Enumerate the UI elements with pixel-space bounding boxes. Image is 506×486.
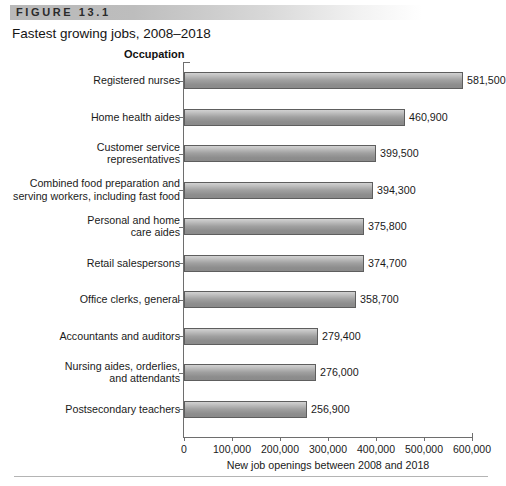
category-label-line: Nursing aides, orderlies, (0, 360, 180, 373)
category-label: Customer servicerepresentatives (0, 141, 180, 166)
category-label-line: care aides (0, 226, 180, 239)
x-axis-tick (280, 437, 281, 441)
chart-bar (184, 401, 307, 418)
x-axis-tick-label: 300,000 (309, 443, 347, 455)
chart-bar (184, 291, 356, 308)
x-axis-tick (424, 437, 425, 441)
category-label: Home health aides (0, 111, 180, 124)
category-label: Accountants and auditors (0, 330, 180, 343)
bar-value-label: 399,500 (380, 145, 419, 162)
category-label-line: serving workers, including fast food (0, 190, 180, 203)
category-label: Personal and homecare aides (0, 214, 180, 239)
chart-bar (184, 218, 364, 235)
x-axis-tick (472, 437, 473, 441)
bar-value-label: 276,000 (320, 364, 359, 381)
y-axis-cap (183, 62, 190, 63)
bottom-divider (14, 476, 488, 477)
x-axis-tick-label: 600,000 (453, 443, 491, 455)
category-label-line: Registered nurses (0, 74, 180, 87)
chart-bar (184, 364, 316, 381)
x-axis-title: New job openings between 2008 and 2018 (227, 459, 430, 471)
category-label: Nursing aides, orderlies,and attendants (0, 360, 180, 385)
category-label-line: Accountants and auditors (0, 330, 180, 343)
x-axis-tick-label: 0 (181, 443, 187, 455)
bar-value-label: 375,800 (368, 218, 407, 235)
bar-value-label: 256,900 (311, 401, 350, 418)
x-axis-tick (184, 437, 185, 441)
category-label-line: Personal and home (0, 214, 180, 227)
bar-value-label: 279,400 (322, 328, 361, 345)
x-axis-tick-label: 200,000 (261, 443, 299, 455)
category-label-line: Postsecondary teachers (0, 403, 180, 416)
bar-value-label: 394,300 (377, 182, 416, 199)
category-label-line: Home health aides (0, 111, 180, 124)
chart-bar (184, 255, 364, 272)
category-label-line: Office clerks, general (0, 293, 180, 306)
chart-bar (184, 72, 463, 89)
category-label: Retail salespersons (0, 257, 180, 270)
category-label: Registered nurses (0, 74, 180, 87)
category-label-line: Customer service (0, 141, 180, 154)
chart-bar (184, 109, 405, 126)
category-label: Postsecondary teachers (0, 403, 180, 416)
category-label-line: representatives (0, 153, 180, 166)
chart-bar (184, 328, 318, 345)
chart-bar (184, 145, 376, 162)
bar-value-label: 581,500 (467, 72, 506, 89)
bar-value-label: 460,900 (409, 109, 448, 126)
category-label-line: Combined food preparation and (0, 177, 180, 190)
category-label-line: and attendants (0, 372, 180, 385)
x-axis-tick-label: 500,000 (405, 443, 443, 455)
bar-value-label: 374,700 (368, 255, 407, 272)
category-label-line: Retail salespersons (0, 257, 180, 270)
x-axis-tick (328, 437, 329, 441)
x-axis-tick-label: 400,000 (357, 443, 395, 455)
x-axis-tick-label: 100,000 (213, 443, 251, 455)
category-label: Combined food preparation andserving wor… (0, 177, 180, 202)
x-axis-tick (376, 437, 377, 441)
chart-bar-row: Postsecondary teachers256,900 (0, 0, 502, 37)
chart-bar (184, 182, 373, 199)
x-axis-tick (232, 437, 233, 441)
category-label: Office clerks, general (0, 293, 180, 306)
bar-value-label: 358,700 (360, 291, 399, 308)
